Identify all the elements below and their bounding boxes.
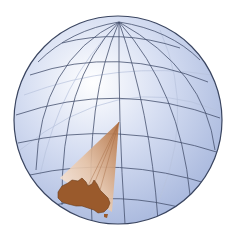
globe-diagram xyxy=(0,0,235,239)
globe-sphere xyxy=(14,16,222,224)
globe-svg xyxy=(0,0,235,239)
